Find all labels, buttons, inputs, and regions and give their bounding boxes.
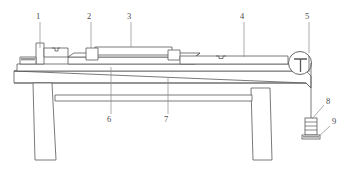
weight-assembly bbox=[302, 118, 320, 139]
callout-8-label: 8 bbox=[326, 96, 330, 106]
workbench-cross-rail-face bbox=[55, 95, 252, 101]
weight-base-shade bbox=[303, 136, 319, 138]
workbench-cross-rail bbox=[55, 95, 252, 101]
carriage-block bbox=[86, 48, 98, 60]
left-small-block-shade bbox=[21, 58, 35, 60]
left-end-stop-arm bbox=[44, 48, 68, 57]
callout-4-label: 4 bbox=[240, 11, 245, 21]
callout-7-label: 7 bbox=[164, 114, 168, 124]
carriage-block-right-face bbox=[168, 50, 180, 60]
weight-stack bbox=[305, 118, 317, 135]
figure-container: 1 2 3 4 5 6 7 8 9 bbox=[0, 0, 344, 175]
workbench-group bbox=[14, 71, 311, 160]
callout-8-leader bbox=[312, 105, 324, 119]
right-long-rail bbox=[180, 56, 288, 64]
callout-2-label: 2 bbox=[87, 11, 91, 21]
workbench-leg-right bbox=[251, 88, 272, 160]
upper-guide-rail-face bbox=[95, 47, 172, 55]
left-end-stop bbox=[36, 43, 68, 64]
carriage-block-face bbox=[86, 48, 98, 60]
workbench-top-slab bbox=[14, 71, 311, 88]
workbench-leg-left-face bbox=[33, 83, 56, 160]
machine-base-plate-face bbox=[17, 64, 295, 71]
upper-guide-rail bbox=[95, 47, 172, 55]
callout-3-label: 3 bbox=[127, 11, 131, 21]
callout-5-label: 5 bbox=[305, 11, 309, 21]
callout-6-label: 6 bbox=[107, 114, 111, 124]
left-small-block bbox=[20, 57, 36, 64]
apparatus-diagram: 1 2 3 4 5 6 7 8 9 bbox=[0, 0, 344, 175]
pulley-group bbox=[289, 52, 312, 75]
carriage-block-right bbox=[168, 50, 180, 60]
callout-1-label: 1 bbox=[36, 11, 40, 21]
callout-9-leader bbox=[318, 126, 330, 137]
right-long-rail-face bbox=[180, 56, 288, 64]
workbench-leg-right-face bbox=[251, 88, 272, 160]
callout-9-label: 9 bbox=[332, 116, 336, 126]
workbench-leg-left bbox=[33, 83, 56, 160]
machine-base-plate bbox=[17, 64, 295, 71]
